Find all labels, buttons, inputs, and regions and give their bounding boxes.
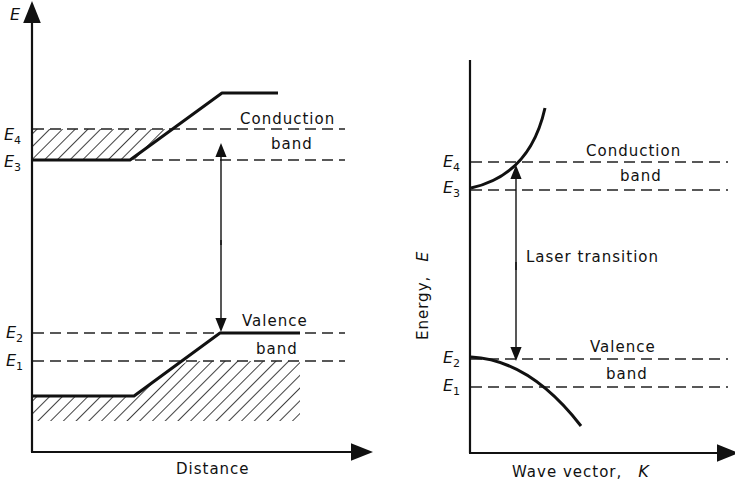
- valence-band-curve: [471, 357, 581, 426]
- right-y-axis-label: Energy,E: [413, 251, 432, 340]
- left-diagram: E Distance E4 E3 E2 E1 Conduction band V…: [4, 5, 362, 478]
- valence-band-label-line1: Valence: [242, 312, 308, 330]
- valence-band-label-line2: band: [606, 365, 648, 383]
- level-label-e2: E2: [443, 348, 460, 370]
- laser-transition-label: Laser transition: [526, 248, 659, 266]
- conduction-band-curve: [471, 108, 545, 188]
- conduction-band-label-line2: band: [271, 135, 313, 153]
- right-x-axis-label: Wave vector,K: [512, 462, 650, 481]
- valence-band-label-line1: Valence: [590, 338, 656, 356]
- level-label-e2: E2: [6, 323, 23, 345]
- valence-band-label-line2: band: [256, 340, 298, 358]
- left-y-axis-label: E: [10, 5, 21, 24]
- level-label-e3: E3: [443, 178, 460, 200]
- right-diagram: Energy,E Wave vector,K E4 E3 E2 E1 Condu…: [413, 60, 728, 481]
- level-label-e1: E1: [6, 351, 23, 373]
- conduction-band-label-line1: Conduction: [586, 142, 681, 160]
- band-diagrams: E Distance E4 E3 E2 E1 Conduction band V…: [0, 0, 735, 482]
- level-label-e1: E1: [443, 376, 460, 398]
- left-x-axis-label: Distance: [176, 460, 250, 478]
- level-label-e4: E4: [443, 152, 460, 174]
- conduction-band-label-line1: Conduction: [240, 110, 335, 128]
- level-label-e4: E4: [4, 125, 21, 147]
- level-label-e3: E3: [4, 152, 21, 174]
- conduction-band-label-line2: band: [620, 167, 662, 185]
- valence-filled-region: [33, 361, 300, 421]
